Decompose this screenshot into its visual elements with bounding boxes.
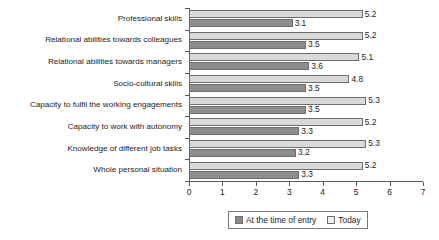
plot-area: Professional skillsRelational abilities … [0, 0, 439, 200]
x-axis-tick-label: 3 [279, 187, 299, 197]
category-label: Capacity to work with autonomy [0, 122, 182, 131]
category-label: Knowledge of different job tasks [0, 144, 182, 153]
x-axis-tick-label: 0 [179, 187, 199, 197]
bar-value-today: 5.1 [361, 53, 373, 62]
category-axis-labels: Professional skillsRelational abilities … [0, 8, 186, 180]
legend-label-today: Today [338, 216, 360, 225]
x-axis-line [189, 181, 423, 182]
chart-legend: At the time of entry Today [228, 211, 368, 229]
x-axis-tick-label: 4 [313, 187, 333, 197]
bar-value-entry: 3.3 [301, 127, 313, 136]
bar-value-today: 5.3 [368, 96, 380, 105]
x-axis-tick-label: 1 [212, 187, 232, 197]
legend-swatch-entry-icon [235, 216, 243, 224]
x-axis-tick [356, 182, 357, 186]
bar-chart: Professional skillsRelational abilities … [0, 0, 439, 240]
bar-value-today: 5.2 [365, 10, 377, 19]
bar-value-entry: 3.6 [311, 62, 323, 71]
bar-today [189, 10, 363, 18]
bar-value-entry: 3.3 [301, 170, 313, 179]
bar-today [189, 97, 366, 105]
bar-today [189, 32, 363, 40]
bar-entry [189, 171, 299, 179]
bar-entry [189, 149, 296, 157]
category-label: Socio-cultural skills [0, 79, 182, 88]
legend-swatch-today-icon [327, 216, 335, 224]
bar-value-today: 5.3 [368, 139, 380, 148]
bar-today [189, 162, 363, 170]
bar-entry [189, 127, 299, 135]
legend-item-entry: At the time of entry [235, 216, 316, 225]
bar-value-entry: 3.5 [308, 105, 320, 114]
x-axis-tick-label: 7 [413, 187, 433, 197]
bar-today [189, 75, 349, 83]
bar-value-entry: 3.1 [295, 19, 307, 28]
x-axis-tick-label: 5 [346, 187, 366, 197]
legend-item-today: Today [327, 216, 360, 225]
x-axis-tick [222, 182, 223, 186]
x-axis-tick-label: 6 [380, 187, 400, 197]
bar-entry [189, 106, 306, 114]
x-axis-tick-label: 2 [246, 187, 266, 197]
category-label: Relational abilities towards colleagues [0, 35, 182, 44]
category-label: Whole personal situation [0, 165, 182, 174]
bar-today [189, 53, 359, 61]
legend-label-entry: At the time of entry [246, 216, 316, 225]
x-axis-tick [423, 182, 424, 186]
bar-value-today: 5.2 [365, 118, 377, 127]
bar-value-entry: 3.2 [298, 148, 310, 157]
x-axis-tick [256, 182, 257, 186]
x-axis-tick [323, 182, 324, 186]
bars-container: 5.23.15.23.55.13.64.83.55.33.55.23.35.33… [189, 8, 423, 181]
x-axis-tick [390, 182, 391, 186]
bar-value-today: 5.2 [365, 31, 377, 40]
bar-value-entry: 3.5 [308, 84, 320, 93]
category-label: Professional skills [0, 14, 182, 23]
bar-value-today: 5.2 [365, 161, 377, 170]
bar-value-today: 4.8 [351, 75, 363, 84]
bar-entry [189, 62, 309, 70]
bar-entry [189, 84, 306, 92]
category-label: Capacity to fulfil the working engagemen… [0, 100, 182, 109]
x-axis-tick [189, 182, 190, 186]
bar-today [189, 118, 363, 126]
category-label: Relational abilities towards managers [0, 57, 182, 66]
x-axis-tick [289, 182, 290, 186]
bar-value-entry: 3.5 [308, 40, 320, 49]
bar-today [189, 140, 366, 148]
bar-entry [189, 41, 306, 49]
bar-entry [189, 19, 293, 27]
